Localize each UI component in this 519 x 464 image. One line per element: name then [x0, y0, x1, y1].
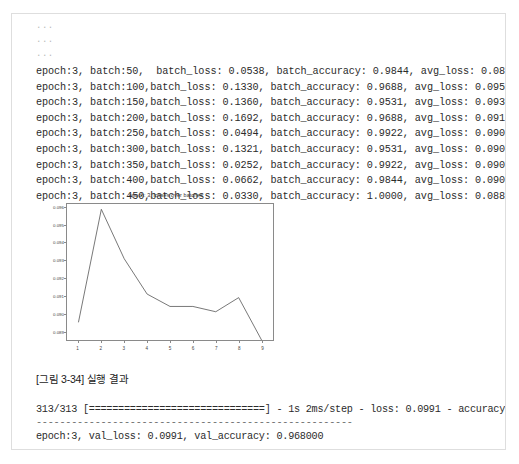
- progress-bar-line: 313/313 [==============================]…: [36, 402, 501, 417]
- log-line: epoch:3, batch:250,batch_loss: 0.0494, b…: [36, 126, 506, 142]
- log-line: epoch:3, batch:150,batch_loss: 0.1360, b…: [36, 95, 506, 111]
- chart-x-tick-label: 4: [146, 346, 149, 351]
- log-line: epoch:3, batch:400,batch_loss: 0.0662, b…: [36, 173, 506, 189]
- log-line: epoch:3, batch:50, batch_loss: 0.0538, b…: [36, 64, 506, 80]
- chart-x-tick-label: 2: [99, 346, 102, 351]
- ellipsis-line: ...: [36, 33, 54, 47]
- chart-y-axis: 0.0960.0950.0940.0930.0920.0910.0900.089: [47, 203, 66, 341]
- training-log: epoch:3, batch:50, batch_loss: 0.0538, b…: [36, 64, 506, 204]
- chart-x-tick-label: 8: [238, 346, 241, 351]
- chart-x-tick-mark: [170, 341, 171, 343]
- chart-x-tick-label: 7: [215, 346, 218, 351]
- ellipsis-line: ...: [36, 19, 54, 33]
- chart-y-tick-label: 0.091: [53, 294, 64, 299]
- chart-y-tick-label: 0.095: [53, 222, 64, 227]
- chart-x-tick-mark: [216, 341, 217, 343]
- chart-x-tick-mark: [101, 341, 102, 343]
- chart-title: epoch: 3, losses over batches: [47, 192, 285, 198]
- chart-y-tick-label: 0.090: [53, 312, 64, 317]
- chart-x-tick-mark: [193, 341, 194, 343]
- chart-x-tick-mark: [262, 341, 263, 343]
- chart-x-tick-mark: [124, 341, 125, 343]
- chart-x-tick-label: 9: [261, 346, 264, 351]
- page-content: ... ... ... epoch:3, batch:50, batch_los…: [12, 14, 505, 449]
- log-line: epoch:3, batch:350,batch_loss: 0.0252, b…: [36, 158, 506, 174]
- chart-x-tick-mark: [147, 341, 148, 343]
- chart-x-tick-label: 5: [169, 346, 172, 351]
- chart-x-axis: 123456789: [66, 341, 274, 357]
- chart-x-tick-mark: [78, 341, 79, 343]
- evaluation-output: 313/313 [==============================]…: [36, 402, 501, 445]
- figure-caption: [그림 3-34] 실행 결과: [36, 371, 129, 386]
- log-line: epoch:3, batch:200,batch_loss: 0.1692, b…: [36, 111, 506, 127]
- ellipsis-line: ...: [36, 47, 54, 61]
- chart-x-tick-mark: [239, 341, 240, 343]
- log-line: epoch:3, batch:100,batch_loss: 0.1330, b…: [36, 80, 506, 96]
- document-page: ... ... ... epoch:3, batch:50, batch_los…: [11, 13, 506, 450]
- chart-line-series: [67, 204, 273, 340]
- chart-x-tick-label: 1: [76, 346, 79, 351]
- validation-summary-line: epoch:3, val_loss: 0.0991, val_accuracy:…: [36, 429, 501, 444]
- chart-plot-area: [66, 203, 274, 341]
- chart-y-tick-label: 0.094: [53, 240, 64, 245]
- chart-y-tick-label: 0.096: [53, 204, 64, 209]
- chart-y-tick-label: 0.092: [53, 276, 64, 281]
- loss-chart: epoch: 3, losses over batches 0.0960.095…: [47, 192, 285, 364]
- chart-x-tick-label: 6: [192, 346, 195, 351]
- ellipsis-block: ... ... ...: [36, 19, 54, 61]
- chart-y-tick-label: 0.093: [53, 258, 64, 263]
- chart-y-tick-label: 0.089: [53, 330, 64, 335]
- chart-x-tick-label: 3: [122, 346, 125, 351]
- separator-line: ----------------------------------------…: [36, 417, 501, 429]
- log-line: epoch:3, batch:300,batch_loss: 0.1321, b…: [36, 142, 506, 158]
